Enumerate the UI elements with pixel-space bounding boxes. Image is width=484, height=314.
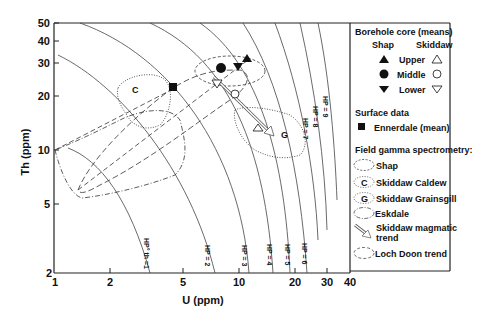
region-shap [195,56,265,86]
y-tick-50: 50 [38,17,50,29]
x-tick-30: 30 [321,276,333,288]
legend-row-upper: Upper [399,55,426,65]
legend-col-skiddaw: Skiddaw [416,40,454,50]
region-label-c: C [132,85,139,95]
skiddaw-magmatic-trend-arrow [214,77,274,136]
legend-skiddaw-upper-icon [432,55,442,63]
hp-contours [58,23,337,273]
region-label-g: G [281,130,288,140]
legend-eskdale-icon [354,208,374,219]
legend-surface-title: Surface data [355,108,410,118]
hp-label-8: HP = 8 [312,106,319,128]
hp-label-2: HP = 2 [204,245,211,267]
x-tick-20: 20 [289,276,301,288]
shap-middle-marker [216,63,226,73]
legend-borehole-title: Borehole core (means) [355,27,453,37]
hp-curve-1 [68,148,150,273]
legend-shap: Shap [376,161,399,171]
x-tick-2: 2 [107,276,113,288]
y-axis-title: Th (ppm) [19,128,31,175]
legend-col-shap: Shap [372,40,395,50]
legend-loch-doon-icon [354,248,374,259]
legend-shap-middle-icon [380,70,389,79]
hp-labels: HP° th =1 HP = 2 HP = 3 HP = 4 HP = 5 HP… [143,96,329,269]
legend: Borehole core (means) Shap Skiddaw Upper… [354,27,473,259]
legend-magmatic-trend-icon [355,225,371,238]
legend-grainsgill-letter: G [361,194,368,204]
data-points [169,54,263,131]
x-tick-10: 10 [233,276,245,288]
y-tick-10: 10 [38,144,50,156]
shap-upper-marker [242,54,252,62]
legend-caldew-letter: C [361,178,368,188]
shap-lower-marker [233,63,243,71]
legend-row-middle: Middle [397,70,426,80]
legend-shap-upper-icon [379,55,389,63]
x-tick-5: 5 [180,276,186,288]
y-tick-30: 30 [38,57,50,69]
hp-curve-6 [243,23,307,273]
y-tick-20: 20 [38,90,50,102]
legend-ennerdale-icon [358,123,365,130]
y-axis: 50 40 30 20 10 5 2 Th (ppm) [19,17,59,279]
thorium-uranium-chart: 50 40 30 20 10 5 2 Th (ppm) 1 2 5 10 20 … [0,0,484,314]
x-tick-1: 1 [52,276,58,288]
legend-ennerdale: Ennerdale (mean) [374,123,450,133]
legend-shap-region-icon [354,160,374,171]
hp-label-4: HP = 4 [266,244,273,266]
hp-label-5: HP = 5 [284,244,291,266]
x-tick-40: 40 [344,276,356,288]
legend-row-lower: Lower [399,85,426,95]
hp-label-3: HP = 3 [241,245,248,267]
legend-magmatic-1: Skiddaw magmatic [376,223,457,233]
y-tick-5: 5 [44,198,50,210]
legend-field-title: Field gamma spectrometry: [355,145,473,155]
x-axis: 1 2 5 10 20 30 40 U (ppm) [52,268,356,306]
legend-skiddaw-lower-icon [432,86,442,93]
legend-magmatic-2: trend [376,233,399,243]
region-caldew [117,75,170,128]
hp-label-1: HP° th =1 [143,238,150,269]
hp-label-7: HP = 7 [302,118,309,140]
x-axis-title: U (ppm) [182,294,224,306]
region-eskdale [55,111,185,198]
legend-caldew: Skiddaw Caldew [376,178,448,188]
trend-lines [55,60,248,190]
hp-curve-3 [80,23,249,273]
ennerdale-mean-marker [169,83,177,91]
legend-eskdale: Eskdale [375,209,409,219]
legend-shap-lower-icon [379,86,389,93]
hp-label-6: HP = 6 [301,243,308,265]
skiddaw-middle-marker [231,90,239,98]
legend-grainsgill: Skiddaw Grainsgill [376,194,457,204]
hp-label-9: HP = 9 [322,96,329,118]
y-tick-40: 40 [38,35,50,47]
legend-skiddaw-middle-icon [433,70,441,78]
legend-loch-doon: Loch Doon trend [375,249,447,259]
